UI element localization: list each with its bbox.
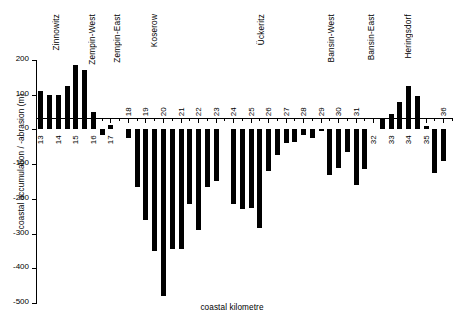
bar [354,129,359,185]
region-label: Heringsdorf [404,14,413,59]
x-tick [321,118,322,123]
x-tick-label: 17 [106,135,115,144]
x-tick [216,118,217,123]
bar [275,129,280,155]
bar [319,129,324,131]
x-tick-label: 31 [352,107,361,116]
x-tick-minor [189,118,190,121]
x-tick-label: 34 [404,135,413,144]
bar [187,129,192,204]
y-tick: -300 [32,234,37,235]
bar [152,129,157,251]
x-tick [198,118,199,123]
x-tick [338,118,339,123]
x-tick-label: 13 [36,135,45,144]
x-tick-minor [452,118,453,121]
x-tick [233,118,234,123]
x-tick [251,118,252,123]
y-tick: -100 [32,164,37,165]
x-tick-minor [137,118,138,121]
y-tick: -500 [32,303,37,304]
bar [91,112,96,129]
x-tick-label: 23 [212,107,221,116]
x-tick-label: 33 [387,135,396,144]
x-tick [268,118,269,123]
x-tick-minor [119,118,120,121]
bar [397,102,402,130]
bar [170,129,175,249]
bar [179,129,184,249]
y-tick-label: 0 [0,123,29,132]
bar [257,129,262,228]
y-tick-label: -200 [0,193,29,202]
bar [424,126,429,129]
x-tick-minor [259,118,260,121]
x-tick-label: 14 [54,135,63,144]
x-tick-minor [347,118,348,121]
region-label: Koserow [150,14,159,47]
bar [205,129,210,186]
bar [310,129,315,138]
x-tick-label: 16 [89,135,98,144]
bar [249,129,254,207]
bar [336,129,341,167]
x-tick-label: 30 [334,107,343,116]
x-tick-label: 22 [194,107,203,116]
bar [108,125,113,129]
x-tick-label: 20 [159,107,168,116]
bar [345,129,350,152]
bar [143,129,148,219]
bar [161,129,166,296]
y-axis-line [36,60,37,303]
bar [406,86,411,129]
bar [82,70,87,129]
y-tick: 0 [32,129,37,130]
bar [214,129,219,181]
y-tick: -200 [32,199,37,200]
x-tick-label: 29 [317,107,326,116]
x-tick-minor [102,118,103,121]
region-label: Ückeritz [257,14,266,45]
region-label: Zinnowitz [52,14,61,50]
bar [380,119,385,129]
x-tick-minor [312,118,313,121]
x-tick-label: 21 [177,107,186,116]
x-tick-minor [154,118,155,121]
y-tick-label: 200 [0,54,29,63]
x-tick-label: 32 [369,135,378,144]
x-tick-label: 19 [141,107,150,116]
x-tick [110,118,111,123]
bar [240,129,245,209]
y-tick-label: -100 [0,158,29,167]
y-tick: 200 [32,60,37,61]
bar [284,129,289,143]
x-tick-label: 36 [439,107,448,116]
x-tick-label: 24 [229,107,238,116]
x-tick-minor [224,118,225,121]
bar [73,65,78,129]
bar [196,129,201,230]
x-tick [181,118,182,123]
x-tick-minor [434,118,435,121]
region-label: Zempin-East [113,14,122,63]
bar [389,114,394,130]
bar [65,86,70,129]
y-tick: 100 [32,95,37,96]
plot-area: 2001000-100-200-300-400-500 131415161718… [36,14,454,304]
bar [231,129,236,204]
bar [301,129,306,134]
x-tick-minor [364,118,365,121]
x-tick [145,118,146,123]
x-tick [356,118,357,123]
y-tick: -400 [32,268,37,269]
bar [47,95,52,130]
bar [362,129,367,169]
bar [292,129,297,141]
x-tick-label: 18 [124,107,133,116]
bar [415,96,420,129]
x-tick-minor [294,118,295,121]
bar [327,129,332,174]
y-tick-label: -300 [0,228,29,237]
bar [126,129,131,138]
x-tick-label: 26 [264,107,273,116]
